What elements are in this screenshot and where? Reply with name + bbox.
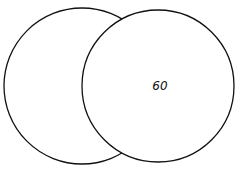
right-only-region-value: 60 xyxy=(152,79,168,93)
venn-diagram: 60 xyxy=(0,0,242,174)
